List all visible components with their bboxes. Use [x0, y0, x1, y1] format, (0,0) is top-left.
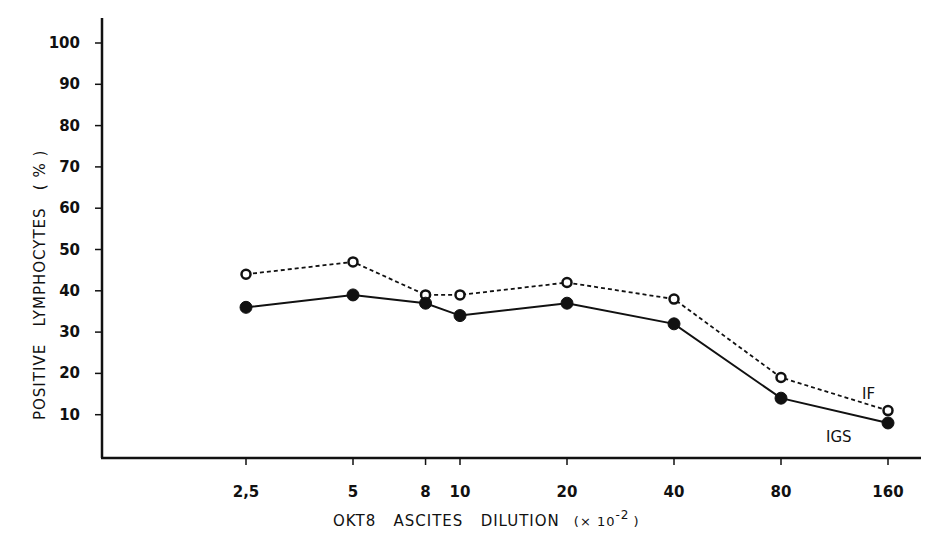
filled-circle-marker	[668, 318, 680, 330]
open-circle-marker	[242, 270, 251, 279]
filled-circle-marker	[240, 301, 252, 313]
open-circle-marker	[777, 373, 786, 382]
x-axis-title-unit: (× 10	[574, 514, 616, 529]
y-tick-label: 30	[59, 323, 80, 341]
x-ticks: 2,55810204080160	[233, 458, 904, 501]
filled-circle-marker	[454, 310, 466, 322]
x-tick-label: 160	[872, 483, 903, 501]
x-tick-label: 2,5	[233, 483, 260, 501]
open-circle-marker	[670, 295, 679, 304]
series-if	[242, 257, 893, 415]
filled-circle-marker	[775, 392, 787, 404]
series-label-igs: IGS	[826, 428, 852, 446]
x-tick-label: 20	[557, 483, 578, 501]
x-axis-title-exponent: -2	[615, 508, 629, 522]
y-axis-title: POSITIVE LYMPHOCYTES ( % )	[31, 150, 49, 420]
series-igs	[240, 289, 894, 429]
x-tick-label: 40	[664, 483, 685, 501]
y-tick-label: 100	[49, 34, 80, 52]
axes	[101, 18, 921, 458]
line-chart: 102030405060708090100 2,55810204080160 P…	[0, 0, 943, 550]
x-tick-label: 8	[420, 483, 430, 501]
series-group	[240, 257, 894, 429]
x-tick-label: 5	[348, 483, 358, 501]
x-tick-label: 10	[450, 483, 471, 501]
y-tick-label: 80	[59, 117, 80, 135]
x-axis-title-main: OKT8 ASCITES DILUTION	[333, 512, 560, 530]
open-circle-marker	[884, 406, 893, 415]
y-tick-label: 60	[59, 199, 80, 217]
y-ticks: 102030405060708090100	[49, 34, 102, 424]
filled-circle-marker	[420, 297, 432, 309]
open-circle-marker	[349, 257, 358, 266]
series-line	[246, 295, 888, 423]
y-tick-label: 90	[59, 75, 80, 93]
y-tick-label: 20	[59, 364, 80, 382]
open-circle-marker	[456, 290, 465, 299]
filled-circle-marker	[347, 289, 359, 301]
x-axis-title: OKT8 ASCITES DILUTION(× 10-2)	[333, 508, 640, 530]
series-label-if: IF	[862, 385, 875, 403]
filled-circle-marker	[561, 297, 573, 309]
y-tick-label: 40	[59, 282, 80, 300]
x-tick-label: 80	[771, 483, 792, 501]
filled-circle-marker	[882, 417, 894, 429]
y-tick-label: 10	[59, 406, 80, 424]
x-axis-title-close: )	[633, 514, 639, 529]
y-tick-label: 50	[59, 241, 80, 259]
y-tick-label: 70	[59, 158, 80, 176]
open-circle-marker	[563, 278, 572, 287]
